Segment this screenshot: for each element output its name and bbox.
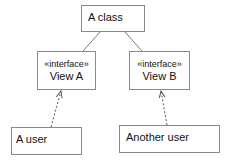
class-box-another-user: Another user [119, 125, 220, 153]
class-box-a-user: A user [11, 127, 82, 155]
class-label: Another user [126, 131, 189, 143]
association-line-class-view-b [125, 32, 142, 51]
dependency-line-another-user-view-b [161, 91, 167, 125]
dependency-line-user-view-a [51, 91, 61, 127]
class-label: A class [88, 11, 123, 23]
interface-box-view-b: «interface» View B [129, 51, 190, 90]
association-line-class-view-a [83, 32, 100, 51]
interface-label: View B [130, 70, 189, 82]
stereotype-label: «interface» [38, 59, 95, 69]
interface-box-view-a: «interface» View A [37, 51, 96, 90]
class-label: A user [16, 133, 47, 145]
stereotype-label: «interface» [130, 59, 189, 69]
interface-label: View A [38, 70, 95, 82]
class-box-a-class: A class [81, 5, 145, 32]
